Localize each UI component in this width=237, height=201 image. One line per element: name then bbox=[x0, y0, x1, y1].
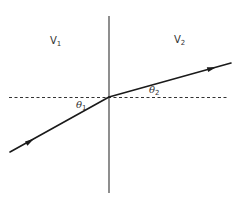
medium-2-label-sub: 2 bbox=[181, 39, 185, 47]
medium-2-label-base: V bbox=[174, 34, 181, 45]
medium-2-label: V2 bbox=[174, 35, 185, 47]
diagram-canvas bbox=[0, 0, 237, 201]
theta-2-label-sub: 2 bbox=[155, 89, 159, 97]
theta-1-label: θ1 bbox=[76, 100, 87, 112]
medium-1-label-sub: 1 bbox=[57, 40, 61, 48]
incident-ray bbox=[10, 97, 109, 152]
medium-1-label: V1 bbox=[50, 36, 61, 48]
incident-arrow-icon bbox=[25, 139, 34, 146]
medium-1-label-base: V bbox=[50, 35, 57, 46]
theta-1-label-sub: 1 bbox=[82, 104, 86, 112]
theta-2-label: θ2 bbox=[149, 85, 160, 97]
refracted-arrow-icon bbox=[207, 67, 216, 72]
